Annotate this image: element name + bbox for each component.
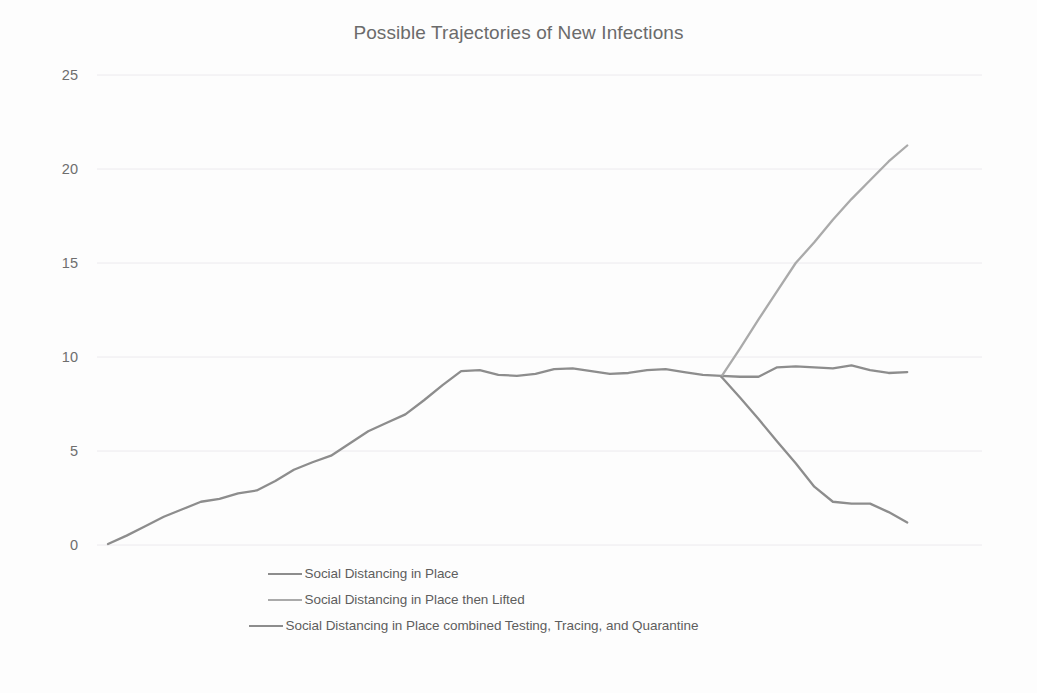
chart-legend: Social Distancing in Place Social Distan… bbox=[0, 566, 1037, 633]
y-axis-tick-label: 0 bbox=[70, 537, 78, 553]
y-axis-tick-label: 25 bbox=[62, 67, 78, 83]
legend-item-social-distancing-in-place[interactable]: Social Distancing in Place bbox=[230, 566, 834, 581]
legend-swatch-icon bbox=[268, 573, 302, 575]
y-axis-tick-label: 20 bbox=[62, 161, 78, 177]
series-lines bbox=[108, 146, 907, 545]
legend-item-label: Social Distancing in Place then Lifted bbox=[305, 592, 525, 607]
series-line-1 bbox=[721, 146, 907, 377]
y-axis-tick-labels: 0510152025 bbox=[62, 67, 78, 553]
y-axis-tick-label: 5 bbox=[70, 443, 78, 459]
legend-item-label: Social Distancing in Place combined Test… bbox=[286, 618, 699, 633]
series-line-2 bbox=[721, 377, 907, 523]
y-axis-tick-label: 15 bbox=[62, 255, 78, 271]
y-axis-tick-label: 10 bbox=[62, 349, 78, 365]
chart-container: Possible Trajectories of New Infections … bbox=[0, 0, 1037, 693]
legend-swatch-icon bbox=[249, 625, 283, 627]
legend-item-social-distancing-then-lifted[interactable]: Social Distancing in Place then Lifted bbox=[230, 592, 834, 607]
legend-item-label: Social Distancing in Place bbox=[305, 566, 459, 581]
gridlines bbox=[97, 75, 982, 545]
legend-item-social-distancing-with-testing-tracing-quarantine[interactable]: Social Distancing in Place combined Test… bbox=[249, 618, 815, 633]
legend-swatch-icon bbox=[268, 599, 302, 601]
